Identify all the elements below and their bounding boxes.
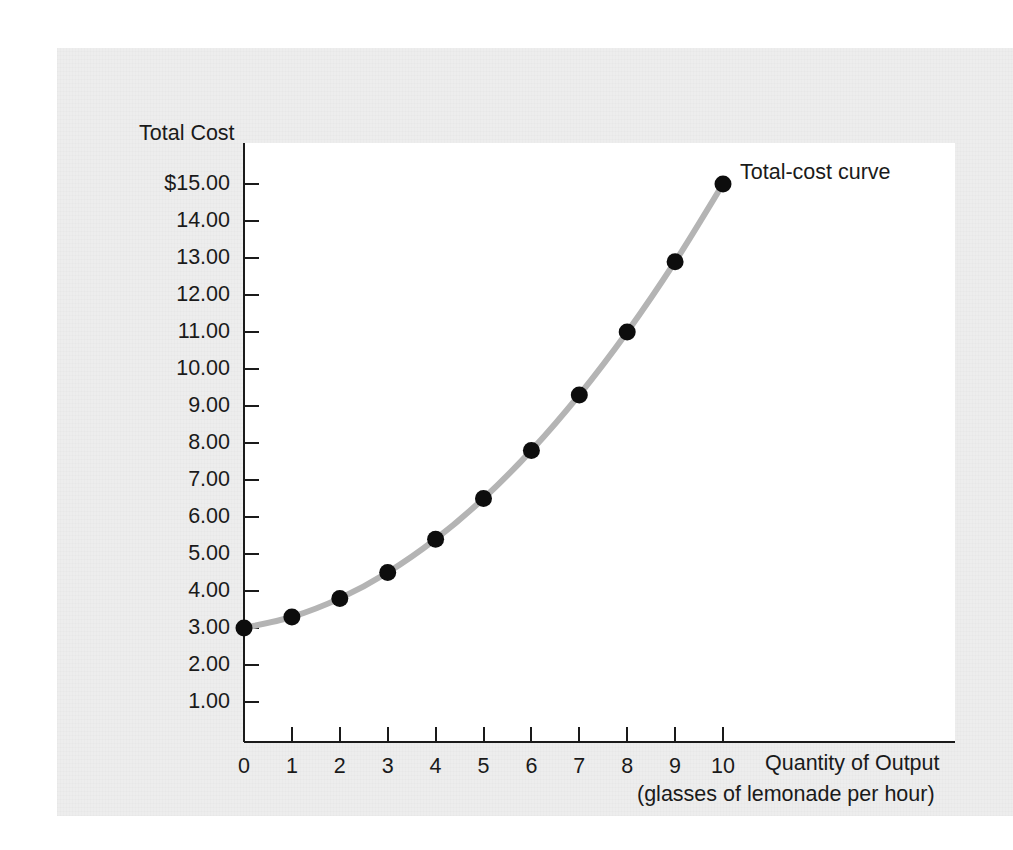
figure-root: Total Cost $15.0014.0013.0012.0011.0010.…	[0, 0, 1013, 850]
total-cost-curve-line	[244, 184, 723, 628]
y-tick-label: 6.00	[120, 506, 230, 528]
x-tick-label: 9	[655, 756, 695, 778]
y-tick-label: 11.00	[120, 321, 230, 343]
x-axis-title-primary: Quantity of Output	[765, 753, 940, 775]
y-tick-label: 14.00	[120, 210, 230, 232]
y-tick-label: 7.00	[120, 469, 230, 491]
x-tick-label: 8	[607, 756, 647, 778]
y-tick-label: 8.00	[120, 432, 230, 454]
data-point-q8	[619, 324, 636, 341]
x-tick-label: 7	[559, 756, 599, 778]
data-point-q6	[523, 442, 540, 459]
data-point-q3	[379, 564, 396, 581]
y-tick-label: 1.00	[120, 691, 230, 713]
y-tick-label: $15.00	[120, 173, 230, 195]
x-tick-label: 4	[416, 756, 456, 778]
x-axis-title-secondary: (glasses of lemonade per hour)	[637, 784, 935, 806]
data-point-q5	[475, 490, 492, 507]
data-point-q1	[283, 608, 300, 625]
data-point-q0	[236, 620, 253, 637]
y-tick-label: 10.00	[120, 358, 230, 380]
y-axis-title: Total Cost	[139, 123, 235, 145]
curve-annotation-label: Total-cost curve	[740, 162, 891, 184]
y-tick-label: 9.00	[120, 395, 230, 417]
x-tick-label: 10	[703, 756, 743, 778]
x-tick-label: 0	[224, 756, 264, 778]
data-point-q7	[571, 386, 588, 403]
x-tick-label: 6	[511, 756, 551, 778]
axes-group	[244, 143, 955, 742]
data-points-group	[236, 176, 732, 637]
data-point-q2	[331, 590, 348, 607]
x-tick-label: 2	[320, 756, 360, 778]
y-tick-label: 13.00	[120, 247, 230, 269]
data-point-q4	[427, 531, 444, 548]
y-tick-label: 3.00	[120, 617, 230, 639]
x-tick-label: 1	[272, 756, 312, 778]
y-tick-label: 4.00	[120, 580, 230, 602]
y-tick-label: 12.00	[120, 284, 230, 306]
data-point-q10	[715, 176, 732, 193]
y-tick-label: 5.00	[120, 543, 230, 565]
x-axis-ticks	[292, 727, 723, 742]
x-tick-label: 3	[368, 756, 408, 778]
x-tick-label: 5	[464, 756, 504, 778]
data-point-q9	[667, 253, 684, 270]
y-tick-label: 2.00	[120, 654, 230, 676]
